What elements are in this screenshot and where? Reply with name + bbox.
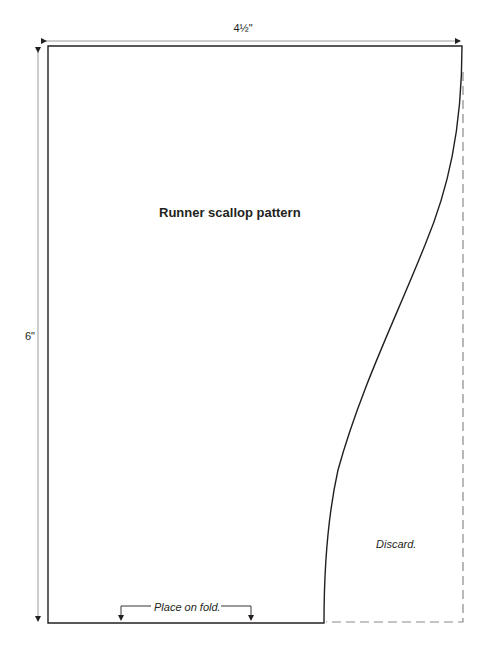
pattern-drawing: [0, 0, 489, 657]
width-dimension-label: 4½": [233, 22, 252, 34]
height-dimension-label: 6": [25, 330, 35, 342]
pattern-outline: [48, 46, 462, 623]
discard-label: Discard.: [376, 538, 416, 550]
pattern-title: Runner scallop pattern: [159, 205, 301, 220]
fold-label: Place on fold.: [154, 601, 221, 613]
